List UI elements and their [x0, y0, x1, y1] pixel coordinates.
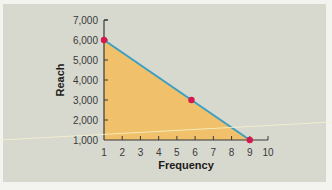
y-tick-label: 5,000 [73, 55, 98, 66]
data-point-marker [247, 137, 253, 143]
x-tick-label: 3 [138, 147, 144, 158]
y-tick-label: 4,000 [73, 75, 98, 86]
x-tick-label: 6 [192, 147, 198, 158]
x-tick-label: 4 [156, 147, 162, 158]
x-tick-label: 7 [211, 147, 217, 158]
x-axis-title: Frequency [158, 159, 215, 171]
y-tick-label: 6,000 [73, 35, 98, 46]
y-tick-label: 3,000 [73, 95, 98, 106]
y-axis-title: Reach [54, 63, 66, 96]
data-point-marker [188, 97, 194, 103]
x-tick-label: 9 [247, 147, 253, 158]
reach-frequency-chart: 1,0002,0003,0004,0005,0006,0007,00012345… [0, 0, 332, 190]
y-tick-label: 7,000 [73, 15, 98, 26]
data-point-marker [101, 37, 107, 43]
x-tick-label: 8 [229, 147, 235, 158]
y-tick-label: 2,000 [73, 115, 98, 126]
x-tick-label: 2 [119, 147, 125, 158]
x-tick-label: 10 [262, 147, 274, 158]
x-tick-label: 1 [101, 147, 107, 158]
x-tick-label: 5 [174, 147, 180, 158]
